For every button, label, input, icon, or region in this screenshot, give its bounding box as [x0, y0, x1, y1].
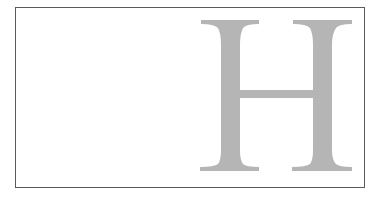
letter-h-glyph — [0, 0, 384, 198]
